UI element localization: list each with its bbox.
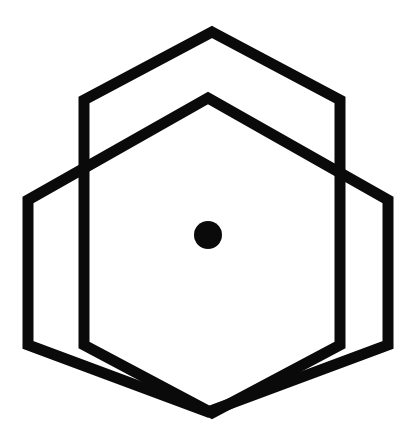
- hexagon-logo-svg: [0, 0, 416, 448]
- logo-canvas: [0, 0, 416, 448]
- center-dot-shape: [194, 221, 222, 249]
